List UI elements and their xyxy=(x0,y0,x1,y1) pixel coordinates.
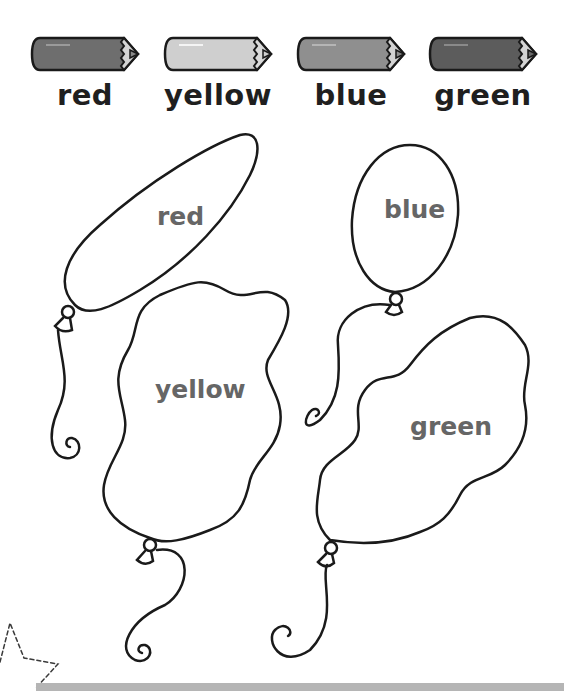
bottom-bar xyxy=(36,683,564,691)
red-balloon-shape xyxy=(52,134,258,458)
green-balloon-shape xyxy=(272,316,529,657)
balloon-label-yellow: yellow xyxy=(155,375,246,404)
balloon-label-red: red xyxy=(157,202,204,231)
blue-balloon-shape xyxy=(306,145,458,425)
star-outline xyxy=(0,623,58,689)
balloon-label-green: green xyxy=(410,412,492,441)
yellow-balloon-shape xyxy=(103,282,288,661)
balloon-outlines xyxy=(0,0,564,691)
balloon-label-blue: blue xyxy=(384,195,445,224)
